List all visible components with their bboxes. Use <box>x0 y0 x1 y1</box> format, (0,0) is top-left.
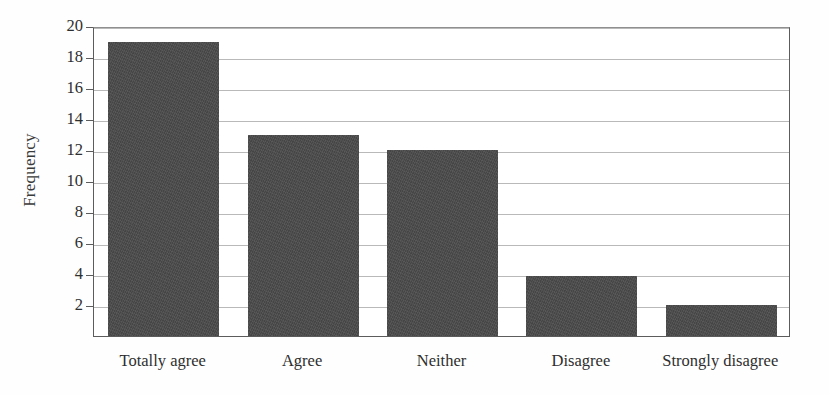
y-axis-tick-label-text: 14 <box>67 111 84 128</box>
y-axis-tick-label-text: 8 <box>75 204 83 221</box>
y-axis-tick <box>86 182 93 183</box>
x-axis-tick-label: Agree <box>232 352 371 370</box>
y-axis-tick-label-text: 20 <box>67 18 84 35</box>
bar <box>248 135 359 337</box>
x-axis-tick-label: Neither <box>372 352 511 370</box>
y-axis-tick-label-text: 6 <box>75 235 83 252</box>
y-axis-tick <box>86 213 93 214</box>
y-axis-tick-label-text: 4 <box>75 266 83 283</box>
y-axis-tick <box>86 151 93 152</box>
y-axis-tick <box>86 58 93 59</box>
y-axis-tick-label-text: 10 <box>67 173 84 190</box>
y-axis-tick <box>86 275 93 276</box>
y-axis-tick <box>86 89 93 90</box>
gridline <box>94 28 789 29</box>
x-axis-tick-label: Totally agree <box>93 352 232 370</box>
bar <box>666 305 777 336</box>
plot-area <box>93 27 790 337</box>
bar <box>108 42 219 337</box>
y-axis-tick-label-text: 2 <box>75 297 83 314</box>
y-axis-tick-label-text: 12 <box>67 142 84 159</box>
y-axis-tick <box>86 120 93 121</box>
y-axis-title-text: Frequency <box>20 133 40 207</box>
y-axis-tick-label-text: 16 <box>67 80 84 97</box>
bar <box>526 276 637 336</box>
y-axis-tick <box>86 27 93 28</box>
x-axis-tick-label: Disagree <box>511 352 650 370</box>
bar <box>387 150 498 336</box>
y-axis-tick <box>86 306 93 307</box>
y-axis-tick <box>86 244 93 245</box>
bar-chart: Frequency 2468101214161820 Totally agree… <box>0 0 829 395</box>
y-axis-title: Frequency <box>0 0 60 340</box>
x-axis-tick-label: Strongly disagree <box>651 352 790 370</box>
y-axis-tick-label-text: 18 <box>67 49 84 66</box>
